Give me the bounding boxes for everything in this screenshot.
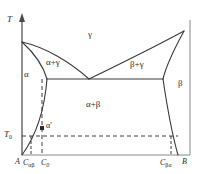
composition-label-c-zero: C0 <box>41 159 49 168</box>
phase-label-beta-gamma: β+γ <box>130 60 144 69</box>
y-axis-label: T <box>7 15 12 24</box>
T0-tick-label: T0 <box>4 130 12 140</box>
beta-liquidus-right-curve <box>89 31 184 79</box>
phase-label-beta: β <box>178 79 183 88</box>
phase-label-alpha-beta: α+β <box>86 100 100 109</box>
c-zero-sub: 0 <box>46 162 49 168</box>
T0-tick-label-sub: 0 <box>9 134 12 140</box>
beta-solidus-right-curve <box>163 31 184 79</box>
x-axis-label-A: A <box>15 158 20 166</box>
phase-label-alpha-gamma: α+γ <box>46 58 60 67</box>
c-beta-alpha-sub: βα <box>165 162 171 168</box>
phase-diagram-figure: T T0 A B Cαβ C0 Cβα γ α α+γ β+γ β α+β α' <box>0 0 207 174</box>
phase-diagram-canvas <box>0 0 207 174</box>
phase-label-alpha: α <box>24 70 29 79</box>
alpha-solvus-curve <box>22 79 47 155</box>
alpha-prime-marker <box>40 126 44 130</box>
phase-label-gamma: γ <box>88 30 92 39</box>
x-axis-label-B: B <box>182 158 187 166</box>
phase-label-alpha-prime: α' <box>46 122 52 130</box>
y-axis-arrow <box>19 13 25 155</box>
c-alpha-beta-sub: αβ <box>28 162 34 168</box>
composition-label-c-alpha-beta: Cαβ <box>23 159 35 168</box>
composition-label-c-beta-alpha: Cβα <box>160 159 172 168</box>
